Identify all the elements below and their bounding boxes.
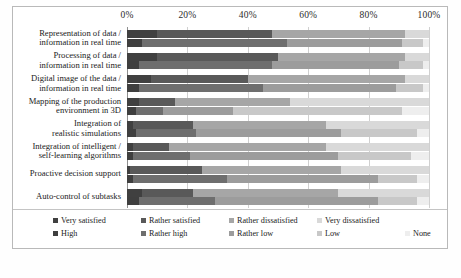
chart-legend: Very satisfiedRather satisfiedRather dis… <box>13 209 447 244</box>
category-row: Integration of realistic simulations <box>127 118 429 141</box>
bar-segment <box>423 61 429 69</box>
bar-segment <box>193 121 326 129</box>
legend-swatch-icon <box>317 231 322 236</box>
bar-segment <box>278 53 405 61</box>
category-label: Mapping of the production environment in… <box>9 97 121 116</box>
legend-item[interactable]: Low <box>317 228 340 240</box>
legend-label: High <box>61 229 77 238</box>
bar-segment <box>263 84 396 92</box>
bar-segment <box>127 30 157 38</box>
bar-segment <box>215 197 378 205</box>
bar-segment <box>127 98 139 106</box>
legend-item[interactable]: Rather dissatisfied <box>229 215 298 227</box>
bar-segment <box>341 166 429 174</box>
category-row: Auto-control of subtasks <box>127 185 429 208</box>
stacked-bar-capability <box>127 107 429 115</box>
bar-segment <box>396 84 423 92</box>
plot-area: Representation of data / information in … <box>127 27 429 208</box>
legend-label: None <box>413 229 431 238</box>
bar-segment <box>227 175 378 183</box>
category-row: Representation of data / information in … <box>127 27 429 50</box>
bar-segment <box>127 189 142 197</box>
bar-segment <box>139 61 272 69</box>
legend-item[interactable]: Rather high <box>141 228 187 240</box>
bar-segment <box>399 61 423 69</box>
bar-segment <box>133 175 227 183</box>
legend-item[interactable]: None <box>405 228 431 240</box>
stacked-bar-satisfaction <box>127 30 429 38</box>
category-row: Mapping of the production environment in… <box>127 95 429 118</box>
bar-segment <box>157 30 272 38</box>
bar-segment <box>417 175 429 183</box>
bar-segment <box>411 152 429 160</box>
legend-label: Very dissatisfied <box>325 216 379 225</box>
bar-segment <box>127 39 142 47</box>
stacked-bar-capability <box>127 84 429 92</box>
category-row: Proactive decision support <box>127 163 429 186</box>
legend-row-satisfaction: Very satisfiedRather satisfiedRather dis… <box>13 215 447 227</box>
stacked-bar-capability <box>127 152 429 160</box>
legend-item[interactable]: Very dissatisfied <box>317 215 379 227</box>
bar-segment <box>326 143 429 151</box>
bar-segment <box>338 189 429 197</box>
legend-row-capability: HighRather highRather lowLowNone <box>13 228 447 240</box>
bar-segment <box>127 75 151 83</box>
legend-label: Rather low <box>237 229 273 238</box>
legend-item[interactable]: Rather low <box>229 228 273 240</box>
legend-item[interactable]: Very satisfied <box>53 215 106 227</box>
bar-segment <box>405 75 429 83</box>
legend-label: Rather dissatisfied <box>237 216 298 225</box>
bar-segment <box>151 75 248 83</box>
bar-segment <box>341 129 417 137</box>
category-row: Integration of intelligent / self-learni… <box>127 140 429 163</box>
x-axis-tick-labels: 0%20%40%60%80%100% <box>13 7 447 27</box>
stacked-bar-satisfaction <box>127 143 429 151</box>
x-axis-tick-80: 80% <box>360 10 378 20</box>
bar-segment <box>423 39 429 47</box>
legend-label: Very satisfied <box>61 216 106 225</box>
legend-swatch-icon <box>53 218 58 223</box>
figure-container: 0%20%40%60%80%100% Representation of dat… <box>0 0 461 278</box>
bar-segment <box>378 197 417 205</box>
legend-swatch-icon <box>317 218 322 223</box>
bar-segment <box>142 39 287 47</box>
bar-segment <box>142 189 193 197</box>
bar-segment <box>272 30 405 38</box>
stacked-bar-satisfaction <box>127 53 429 61</box>
bar-segment <box>233 107 402 115</box>
bar-segment <box>196 129 341 137</box>
legend-swatch-icon <box>53 231 58 236</box>
bar-segment <box>163 107 232 115</box>
stacked-bar-capability <box>127 61 429 69</box>
bar-segment <box>402 107 429 115</box>
bar-segment <box>133 152 190 160</box>
legend-item[interactable]: Rather satisfied <box>141 215 200 227</box>
stacked-bar-satisfaction <box>127 189 429 197</box>
legend-item[interactable]: High <box>53 228 77 240</box>
legend-label: Rather satisfied <box>149 216 200 225</box>
bar-segment <box>417 197 429 205</box>
bar-segment <box>402 39 423 47</box>
bar-segment <box>127 129 136 137</box>
stacked-bar-capability <box>127 129 429 137</box>
chart-frame: 0%20%40%60%80%100% Representation of dat… <box>12 6 448 249</box>
x-axis-tick-40: 40% <box>239 10 257 20</box>
bar-segment <box>290 98 429 106</box>
bar-segment <box>287 39 402 47</box>
bar-segment <box>190 152 338 160</box>
stacked-bar-satisfaction <box>127 75 429 83</box>
bar-segment <box>157 53 278 61</box>
x-axis-tick-20: 20% <box>178 10 196 20</box>
legend-swatch-icon <box>229 218 234 223</box>
category-label: Integration of realistic simulations <box>9 119 121 138</box>
bar-segment <box>378 175 417 183</box>
category-label: Digital image of the data / information … <box>9 74 121 93</box>
bar-segment <box>127 84 139 92</box>
legend-label: Low <box>325 229 340 238</box>
legend-swatch-icon <box>405 231 410 236</box>
bar-segment <box>175 98 290 106</box>
gridline-100 <box>429 27 430 208</box>
bar-segment <box>405 30 429 38</box>
category-row: Processing of data / information in real… <box>127 50 429 73</box>
stacked-bar-capability <box>127 197 429 205</box>
